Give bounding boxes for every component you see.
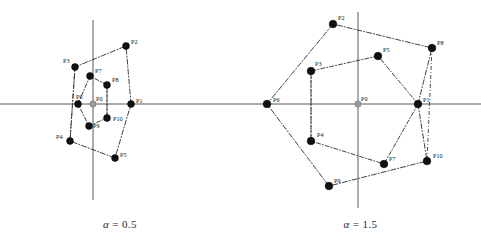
data-point-p10[interactable]	[104, 115, 111, 122]
point-label-p3: P3	[63, 57, 70, 64]
data-point-p6[interactable]	[75, 101, 82, 108]
plot-panel-alpha-1-5: P1 P2 P3 P4 P5 P6 P7 P8 P9 P10 P0 α = 1.…	[240, 0, 481, 248]
data-point-p4[interactable]	[307, 137, 315, 145]
data-point-p1[interactable]	[414, 100, 422, 108]
caption-alpha-0-5: α = 0.5	[0, 218, 240, 230]
point-label-p10: P10	[433, 152, 443, 159]
data-point-p3[interactable]	[72, 64, 79, 71]
point-label-p0: P0	[361, 95, 368, 102]
inner-polygon	[311, 56, 418, 164]
point-label-p1: P1	[136, 97, 143, 104]
data-point-p3[interactable]	[307, 67, 315, 75]
outer-polygon	[267, 24, 432, 186]
point-label-p3: P3	[315, 60, 322, 67]
point-label-p8: P8	[112, 76, 119, 83]
point-label-p2: P2	[131, 38, 138, 45]
data-point-p8[interactable]	[428, 44, 436, 52]
point-label-p5: P5	[120, 151, 127, 158]
point-label-p1: P1	[423, 96, 430, 103]
data-point-p5[interactable]	[374, 52, 382, 60]
plot-panel-alpha-0-5: P1 P2 P3 P4 P5 P6 P7 P8 P9 P10 P0 α = 0.…	[0, 0, 240, 248]
point-label-p4: P4	[56, 133, 63, 140]
data-point-p7[interactable]	[380, 160, 388, 168]
data-point-p4[interactable]	[67, 138, 74, 145]
data-point-p7[interactable]	[87, 73, 94, 80]
data-point-p9[interactable]	[86, 123, 93, 130]
caption-alpha-value: = 1.5	[350, 218, 378, 230]
point-label-p5: P5	[383, 46, 390, 53]
data-point-p2[interactable]	[329, 20, 337, 28]
plot-svg-alpha-1-5: P1 P2 P3 P4 P5 P6 P7 P8 P9 P10 P0	[240, 0, 481, 212]
point-label-p0: P0	[96, 95, 103, 102]
point-label-p9: P9	[93, 122, 100, 129]
figure-container: P1 P2 P3 P4 P5 P6 P7 P8 P9 P10 P0 α = 0.…	[0, 0, 481, 248]
point-label-p4: P4	[317, 131, 324, 138]
point-label-p6: P6	[273, 96, 280, 103]
point-label-p7: P7	[95, 67, 102, 74]
data-point-p5[interactable]	[112, 155, 119, 162]
point-label-p7: P7	[389, 155, 396, 162]
data-point-p1[interactable]	[128, 101, 135, 108]
caption-alpha-1-5: α = 1.5	[240, 218, 481, 230]
point-label-p6: P6	[76, 93, 83, 100]
point-label-p10: P10	[113, 115, 123, 122]
caption-alpha-value: = 0.5	[109, 218, 137, 230]
point-label-p8: P8	[437, 39, 444, 46]
data-point-p8[interactable]	[104, 82, 111, 89]
data-point-p2[interactable]	[123, 43, 130, 50]
data-point-p9[interactable]	[325, 182, 333, 190]
point-label-p2: P2	[338, 14, 345, 21]
data-point-p10[interactable]	[423, 157, 431, 165]
point-label-p9: P9	[334, 177, 341, 184]
plot-svg-alpha-0-5: P1 P2 P3 P4 P5 P6 P7 P8 P9 P10 P0	[0, 0, 240, 212]
data-point-p6[interactable]	[263, 100, 271, 108]
